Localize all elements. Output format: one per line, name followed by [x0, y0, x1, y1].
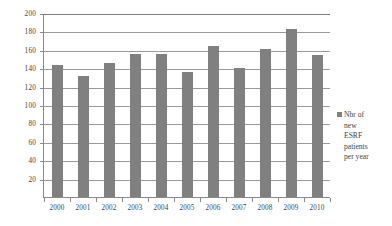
bar — [52, 65, 63, 198]
x-axis-tick — [200, 198, 201, 202]
x-axis-tick — [278, 198, 279, 202]
y-axis-label: 100 — [2, 102, 36, 110]
bar — [104, 63, 115, 198]
legend-label: Nbr of new ESRF pa­tients per year — [344, 110, 370, 163]
bar — [78, 76, 89, 198]
x-axis-label: 2007 — [226, 204, 252, 213]
x-axis-label: 2009 — [278, 204, 304, 213]
x-axis-label: 2006 — [200, 204, 226, 213]
x-axis-tick — [174, 198, 175, 202]
y-axis-label: 40 — [2, 157, 36, 165]
legend-swatch-icon — [337, 112, 342, 117]
y-axis-label: 180 — [2, 28, 36, 36]
bar — [286, 29, 297, 198]
bar — [260, 49, 271, 198]
bar — [182, 72, 193, 198]
bar — [130, 54, 141, 198]
bar — [312, 55, 323, 198]
x-axis-tick — [226, 198, 227, 202]
x-axis-tick — [330, 198, 331, 202]
x-axis-tick — [44, 198, 45, 202]
chart-legend: Nbr of new ESRF pa­tients per year — [337, 110, 389, 163]
y-axis-label: 60 — [2, 139, 36, 147]
x-axis-line — [44, 197, 330, 198]
y-axis-label: 160 — [2, 47, 36, 55]
x-axis-tick — [148, 198, 149, 202]
x-axis-label: 2001 — [70, 204, 96, 213]
bar — [208, 46, 219, 198]
x-axis-tick — [252, 198, 253, 202]
x-axis-tick — [70, 198, 71, 202]
x-axis-label: 2002 — [96, 204, 122, 213]
x-axis-tick — [96, 198, 97, 202]
x-axis-label: 2005 — [174, 204, 200, 213]
plot-area — [44, 14, 330, 198]
x-axis-label: 2008 — [252, 204, 278, 213]
x-axis-tick — [122, 198, 123, 202]
x-axis-label: 2010 — [304, 204, 330, 213]
bar — [156, 54, 167, 198]
y-axis-label: 20 — [2, 176, 36, 184]
bar-chart: 20406080100120140160180200 2000200120022… — [0, 0, 392, 226]
x-axis-tick — [304, 198, 305, 202]
x-axis-label: 2003 — [122, 204, 148, 213]
y-axis-label: 140 — [2, 65, 36, 73]
y-axis-label: 80 — [2, 120, 36, 128]
x-axis-label: 2004 — [148, 204, 174, 213]
y-axis-label: 120 — [2, 84, 36, 92]
x-axis-label: 2000 — [44, 204, 70, 213]
y-axis-label: 200 — [2, 10, 36, 18]
bars — [44, 14, 330, 198]
bar — [234, 68, 245, 198]
